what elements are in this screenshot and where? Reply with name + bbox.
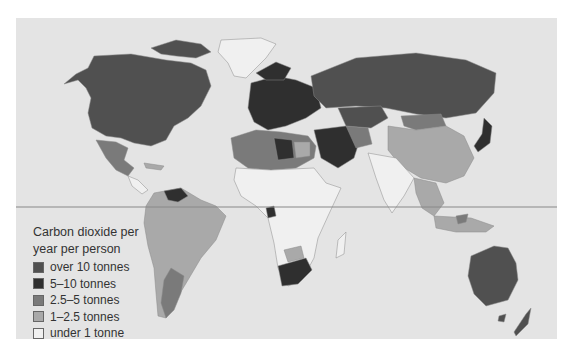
legend-swatch — [33, 278, 44, 289]
legend-item-under-1: under 1 tonne — [33, 325, 139, 339]
region-southeast-asia — [414, 178, 444, 216]
region-europe — [248, 76, 321, 130]
legend-item-over-10: over 10 tonnes — [33, 259, 139, 276]
legend-item-2-5-5: 2.5–5 tonnes — [33, 292, 139, 309]
legend-item-1-2-5: 1–2.5 tonnes — [33, 309, 139, 326]
map-frame: Carbon dioxide per year per person over … — [16, 18, 557, 339]
region-kazakhstan — [338, 106, 388, 128]
region-new-zealand — [514, 308, 531, 336]
legend-title: Carbon dioxide per year per person — [33, 224, 139, 258]
map-legend: Carbon dioxide per year per person over … — [33, 224, 139, 339]
region-japan — [474, 118, 492, 152]
legend-swatch — [33, 311, 44, 322]
region-australia — [468, 246, 518, 306]
region-north-america — [64, 54, 211, 146]
legend-swatch — [33, 262, 44, 273]
legend-swatch — [33, 295, 44, 306]
legend-swatch — [33, 328, 44, 339]
region-egypt — [294, 142, 310, 158]
region-gabon — [266, 206, 276, 218]
legend-item-5-10: 5–10 tonnes — [33, 276, 139, 293]
region-mexico — [96, 140, 134, 176]
